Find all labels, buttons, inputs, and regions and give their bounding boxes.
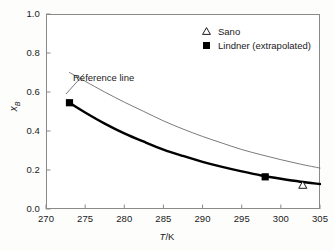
marker-filled-square — [262, 173, 269, 180]
open-triangle-icon — [199, 27, 213, 35]
series-lines — [69, 73, 320, 185]
filled-square-icon — [199, 42, 213, 49]
data-curve — [69, 103, 320, 184]
chart-figure: 0.00.20.40.60.81.0 270275280285290295300… — [0, 0, 334, 251]
legend-label-lindner: Lindner (extrapolated) — [218, 40, 311, 51]
y-tick-label: 0.4 — [14, 125, 40, 136]
legend-label-sano: Sano — [218, 26, 240, 37]
legend-item-sano: Sano — [199, 24, 311, 38]
chart-legend: Sano Lindner (extrapolated) — [199, 24, 311, 52]
x-tick-label: 305 — [305, 213, 334, 224]
x-tick-label: 270 — [31, 213, 61, 224]
x-tick-label: 290 — [188, 213, 218, 224]
y-axis-title: xB — [8, 90, 21, 124]
x-axis-title-units: /K — [165, 231, 174, 242]
x-tick-label: 280 — [109, 213, 139, 224]
y-axis-title-subscript: B — [14, 102, 21, 107]
x-tick-label: 275 — [70, 213, 100, 224]
x-tick-label: 285 — [148, 213, 178, 224]
x-tick-label: 295 — [227, 213, 257, 224]
reference-line-annotation: Reference line — [73, 72, 134, 83]
y-tick-label: 0.2 — [14, 164, 40, 175]
marker-filled-square — [66, 99, 73, 106]
data-markers — [66, 99, 307, 188]
reference-curve — [69, 73, 320, 169]
y-axis-title-symbol: x — [8, 106, 19, 111]
y-tick-label: 1.0 — [14, 8, 40, 19]
x-tick-label: 300 — [266, 213, 296, 224]
y-axis-ticks — [46, 14, 51, 209]
filled-square-glyph — [203, 42, 210, 49]
x-axis-ticks — [46, 205, 320, 210]
y-tick-label: 0.8 — [14, 47, 40, 58]
open-triangle-glyph — [202, 27, 211, 35]
x-axis-title: T/K — [0, 231, 334, 242]
legend-item-lindner: Lindner (extrapolated) — [199, 38, 311, 52]
